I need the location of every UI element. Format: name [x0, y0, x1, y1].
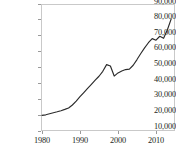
- series-canvas: [0, 0, 176, 157]
- data-line: [42, 19, 171, 116]
- line-chart: 90,000 80,000 70,000 60,000 50,000 40,00…: [0, 0, 176, 157]
